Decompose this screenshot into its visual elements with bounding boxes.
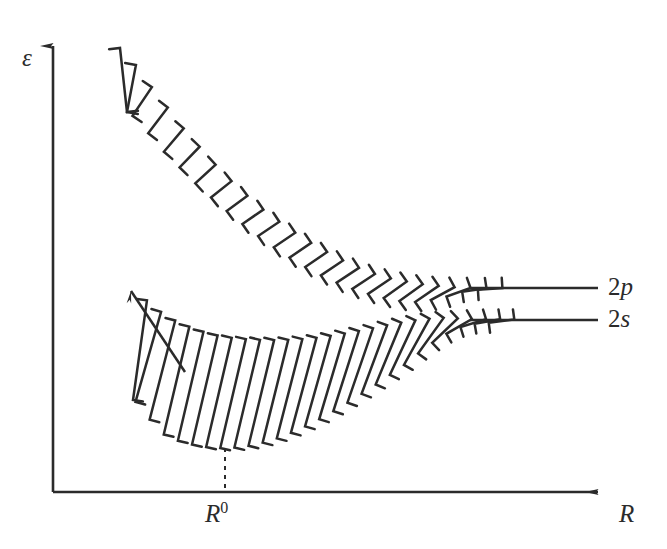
- level-2s-orbital: s: [621, 305, 631, 332]
- band-hatch-stroke: [220, 337, 246, 450]
- band-hatch-stroke: [125, 63, 138, 114]
- band-hatch-stroke: [431, 278, 455, 310]
- energy-band-2s: [133, 299, 514, 450]
- band-hatch-stroke: [195, 157, 215, 192]
- band-hatch-stroke: [291, 335, 317, 435]
- band-hatch-stroke: [148, 101, 168, 140]
- band-hatch-stroke: [399, 275, 422, 310]
- atomic-level-lines: [470, 288, 598, 320]
- band-hatch-stroke: [258, 213, 279, 245]
- band-hatch-stroke: [132, 81, 151, 122]
- band-hatch-stroke: [164, 121, 184, 159]
- band-hatch-stroke: [263, 337, 289, 445]
- y-axis-label: ε: [22, 44, 32, 72]
- level-label-2s: 2s: [608, 305, 630, 333]
- level-label-2p: 2p: [608, 273, 633, 301]
- band-hatch-stroke: [305, 243, 327, 276]
- band-hatch-stroke: [362, 322, 388, 398]
- level-2p-number: 2: [608, 273, 621, 300]
- r0-base: R: [205, 500, 220, 527]
- band-hatch-stroke: [384, 273, 407, 307]
- r0-superscript: 0: [220, 499, 228, 516]
- band-hatch-stroke: [192, 333, 218, 446]
- x-axis-label: R: [619, 500, 634, 528]
- band-hatch-stroke: [242, 201, 263, 233]
- figure-canvas: ε R R0 2p 2s: [0, 0, 667, 549]
- band-hatch-stroke: [333, 328, 359, 414]
- band-hatch-stroke: [274, 224, 295, 257]
- band-hatch-stroke: [178, 329, 204, 443]
- band-hatch-stroke: [305, 333, 331, 429]
- band-hatch-stroke: [234, 338, 260, 450]
- band-hatch-stroke: [227, 187, 248, 220]
- band-hatch-stroke: [289, 234, 311, 267]
- energy-band-2p: [109, 48, 502, 311]
- band-hatch-stroke: [164, 324, 190, 437]
- band-hatch-stroke: [319, 331, 345, 422]
- band-hatch-stroke: [277, 337, 303, 441]
- level-2p-orbital: p: [621, 273, 634, 300]
- band-hatch-stroke: [368, 269, 391, 303]
- band-hatch-stroke: [347, 325, 373, 406]
- level-2s-number: 2: [608, 305, 621, 332]
- band-hatch-stroke: [206, 336, 232, 450]
- band-hatch-stroke: [249, 338, 275, 448]
- band-hatch-stroke: [180, 139, 200, 175]
- band-hatch-stroke: [211, 173, 232, 207]
- energy-band-diagram: [0, 0, 667, 549]
- r0-tick-label: R0: [205, 500, 228, 528]
